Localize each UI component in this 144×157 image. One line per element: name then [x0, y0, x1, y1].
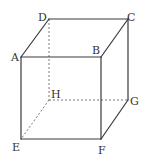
- cube-diagram: A B C D E F G H: [0, 0, 144, 157]
- edge-bc: [101, 19, 128, 57]
- vertex-label-e: E: [12, 141, 20, 154]
- vertex-label-c: C: [127, 11, 135, 24]
- vertex-label-d: D: [38, 11, 47, 24]
- hidden-edges: [21, 19, 128, 139]
- vertex-label-g: G: [130, 95, 139, 108]
- edge-da: [21, 19, 49, 57]
- vertex-label-h: H: [51, 88, 61, 101]
- visible-edges: [21, 19, 128, 139]
- vertex-label-f: F: [98, 144, 106, 157]
- vertex-label-a: A: [10, 51, 20, 64]
- vertex-label-b: B: [92, 44, 100, 57]
- edge-fg: [101, 100, 128, 139]
- hidden-edge-he: [21, 100, 49, 139]
- vertex-labels: A B C D E F G H: [10, 11, 139, 157]
